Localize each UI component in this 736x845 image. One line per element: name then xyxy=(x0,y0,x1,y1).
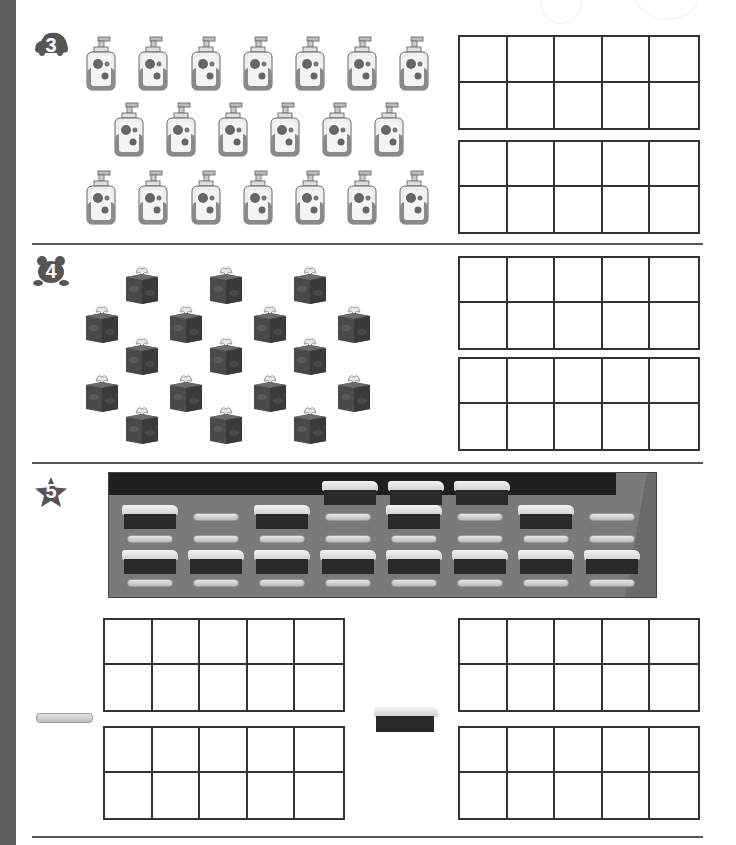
ten-frame-cell[interactable] xyxy=(153,620,201,665)
ten-frame-cell[interactable] xyxy=(295,665,343,710)
ten-frame-cell[interactable] xyxy=(200,665,248,710)
ten-frame-cell[interactable] xyxy=(555,83,603,129)
ten-frame-cell[interactable] xyxy=(248,728,296,773)
ten-frame-cell[interactable] xyxy=(650,665,698,710)
ten-frame-cell[interactable] xyxy=(650,187,698,232)
ten-frame-cell[interactable] xyxy=(460,404,508,449)
ten-frame-cell[interactable] xyxy=(508,620,556,665)
ten-frame-cell[interactable] xyxy=(508,37,556,83)
soap-dispenser-icon xyxy=(398,36,430,96)
ten-frame-cell[interactable] xyxy=(650,620,698,665)
ten-frame-cell[interactable] xyxy=(460,665,508,710)
ten-frame-cell[interactable] xyxy=(508,728,556,773)
ten-frame[interactable] xyxy=(458,256,700,350)
ten-frame-cell[interactable] xyxy=(508,187,556,232)
ten-frame-cell[interactable] xyxy=(105,728,153,773)
ten-frame-cell[interactable] xyxy=(603,187,651,232)
ten-frame-cell[interactable] xyxy=(555,37,603,83)
ten-frame-cell[interactable] xyxy=(555,404,603,449)
ten-frame-cell[interactable] xyxy=(508,142,556,187)
soap-dispenser-icon xyxy=(294,170,326,230)
ten-frame-cell[interactable] xyxy=(603,665,651,710)
ten-frame-cell[interactable] xyxy=(295,620,343,665)
ten-frame-cell[interactable] xyxy=(460,83,508,129)
ten-frame-cell[interactable] xyxy=(460,620,508,665)
ten-frame-cell[interactable] xyxy=(153,773,201,818)
ten-frame-cell[interactable] xyxy=(460,773,508,818)
eraser-icon xyxy=(188,550,244,574)
ten-frame-cell[interactable] xyxy=(603,303,651,348)
ten-frame[interactable] xyxy=(103,618,345,712)
ten-frame-cell[interactable] xyxy=(508,83,556,129)
ten-frame-cell[interactable] xyxy=(200,728,248,773)
ten-frame-cell[interactable] xyxy=(200,620,248,665)
eraser-icon xyxy=(322,481,378,505)
ten-frame-cell[interactable] xyxy=(508,258,556,303)
chalk-icon xyxy=(325,579,371,587)
ten-frame-cell[interactable] xyxy=(555,303,603,348)
ten-frame-cell[interactable] xyxy=(460,142,508,187)
ten-frame-cell[interactable] xyxy=(650,258,698,303)
chalk-icon xyxy=(457,579,503,587)
ten-frame[interactable] xyxy=(458,618,700,712)
ten-frame-cell[interactable] xyxy=(153,728,201,773)
ten-frame-cell[interactable] xyxy=(248,773,296,818)
ten-frame-cell[interactable] xyxy=(555,620,603,665)
ten-frame[interactable] xyxy=(458,726,700,820)
ten-frame-cell[interactable] xyxy=(555,665,603,710)
ten-frame-cell[interactable] xyxy=(650,404,698,449)
ten-frame-cell[interactable] xyxy=(650,359,698,404)
ten-frame-cell[interactable] xyxy=(508,665,556,710)
ten-frame-cell[interactable] xyxy=(603,773,651,818)
ten-frame-cell[interactable] xyxy=(650,728,698,773)
ten-frame-cell[interactable] xyxy=(650,37,698,83)
tissue-box-icon xyxy=(84,304,120,348)
ten-frame-cell[interactable] xyxy=(460,303,508,348)
ten-frame-cell[interactable] xyxy=(200,773,248,818)
ten-frame-cell[interactable] xyxy=(508,773,556,818)
ten-frame-cell[interactable] xyxy=(248,620,296,665)
ten-frame-cell[interactable] xyxy=(603,620,651,665)
ten-frame-cell[interactable] xyxy=(555,359,603,404)
tissue-box-icon xyxy=(292,336,328,380)
ten-frame-cell[interactable] xyxy=(603,404,651,449)
ten-frame-cell[interactable] xyxy=(248,665,296,710)
ten-frame-cell[interactable] xyxy=(105,620,153,665)
ten-frame-cell[interactable] xyxy=(153,665,201,710)
ten-frame-cell[interactable] xyxy=(460,728,508,773)
ten-frame[interactable] xyxy=(458,357,700,451)
ten-frame-cell[interactable] xyxy=(555,728,603,773)
tissue-box-icon xyxy=(168,304,204,348)
ten-frame-cell[interactable] xyxy=(460,187,508,232)
ten-frame-cell[interactable] xyxy=(603,258,651,303)
ten-frame-cell[interactable] xyxy=(295,773,343,818)
ten-frame-cell[interactable] xyxy=(508,359,556,404)
ten-frame-cell[interactable] xyxy=(555,773,603,818)
ten-frame-cell[interactable] xyxy=(650,83,698,129)
ten-frame-cell[interactable] xyxy=(460,359,508,404)
ten-frame-cell[interactable] xyxy=(650,303,698,348)
ten-frame[interactable] xyxy=(458,140,700,234)
ten-frame-cell[interactable] xyxy=(650,773,698,818)
chalk-icon xyxy=(523,579,569,587)
ten-frame-cell[interactable] xyxy=(603,142,651,187)
ten-frame-cell[interactable] xyxy=(105,773,153,818)
ten-frame-cell[interactable] xyxy=(555,142,603,187)
ten-frame-cell[interactable] xyxy=(603,359,651,404)
ten-frame-cell[interactable] xyxy=(460,37,508,83)
ten-frame-cell[interactable] xyxy=(603,728,651,773)
ten-frame-cell[interactable] xyxy=(650,142,698,187)
ten-frame-cell[interactable] xyxy=(555,187,603,232)
chalk-icon xyxy=(127,535,173,543)
ten-frame-cell[interactable] xyxy=(508,303,556,348)
ten-frame-cell[interactable] xyxy=(460,258,508,303)
ten-frame-cell[interactable] xyxy=(555,258,603,303)
ten-frame-cell[interactable] xyxy=(508,404,556,449)
ten-frame-cell[interactable] xyxy=(105,665,153,710)
ten-frame-cell[interactable] xyxy=(603,83,651,129)
ten-frame-cell[interactable] xyxy=(295,728,343,773)
ten-frame[interactable] xyxy=(103,726,345,820)
tissue-box-icon xyxy=(252,304,288,348)
ten-frame-cell[interactable] xyxy=(603,37,651,83)
ten-frame[interactable] xyxy=(458,35,700,130)
